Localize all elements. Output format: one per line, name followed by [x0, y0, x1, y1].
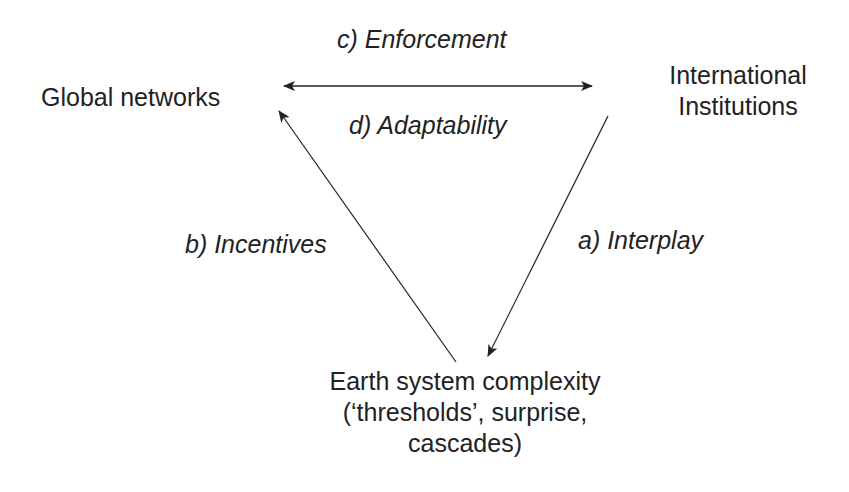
global-networks-label: Global networks [41, 83, 220, 111]
earth-system-line2: (‘thresholds’, surprise, [300, 397, 630, 428]
international-institutions-line1: International [648, 60, 828, 91]
node-earth-system-complexity: Earth system complexity (‘thresholds’, s… [300, 366, 630, 459]
earth-system-line3: cascades) [300, 428, 630, 459]
edge-label-incentives: b) Incentives [185, 229, 327, 259]
node-international-institutions: International Institutions [648, 60, 828, 122]
edge-label-enforcement: c) Enforcement [337, 24, 507, 54]
international-institutions-line2: Institutions [648, 91, 828, 122]
node-global-networks: Global networks [41, 82, 220, 113]
edge-label-adaptability: d) Adaptability [349, 110, 507, 140]
edge-label-interplay: a) Interplay [578, 225, 703, 255]
earth-system-line1: Earth system complexity [300, 366, 630, 397]
